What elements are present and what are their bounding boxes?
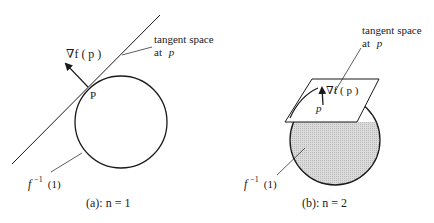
tangent-label-line1: tangent space	[362, 24, 422, 36]
gradient-label: ∇f ( p )	[66, 47, 101, 61]
panel-a: ∇f ( p ) P tangent space at p f −1 (1) (…	[12, 15, 214, 210]
caption-b: (b): n = 2	[302, 196, 347, 210]
level-set-label: f −1 (1)	[28, 171, 61, 191]
level-set-label-leader	[51, 153, 82, 172]
gradient-arrow	[66, 64, 88, 87]
caption-a: (a): n = 1	[86, 196, 130, 210]
gradient-label: ∇f ( p )	[326, 84, 359, 97]
tangent-label-line2: at p	[154, 46, 175, 58]
tangent-label-line2: at p	[362, 37, 383, 49]
point-label: p	[315, 102, 322, 114]
point-label: P	[90, 89, 96, 101]
level-set-circle	[75, 76, 167, 168]
diagram-canvas: ∇f ( p ) P tangent space at p f −1 (1) (…	[0, 0, 434, 223]
tangent-label-line1: tangent space	[154, 33, 214, 45]
tangent-line	[12, 15, 160, 164]
level-set-label: f −1 (1)	[244, 171, 277, 191]
panel-b: ∇f ( p ) p tangent space at p f −1 (1) (…	[244, 24, 422, 210]
